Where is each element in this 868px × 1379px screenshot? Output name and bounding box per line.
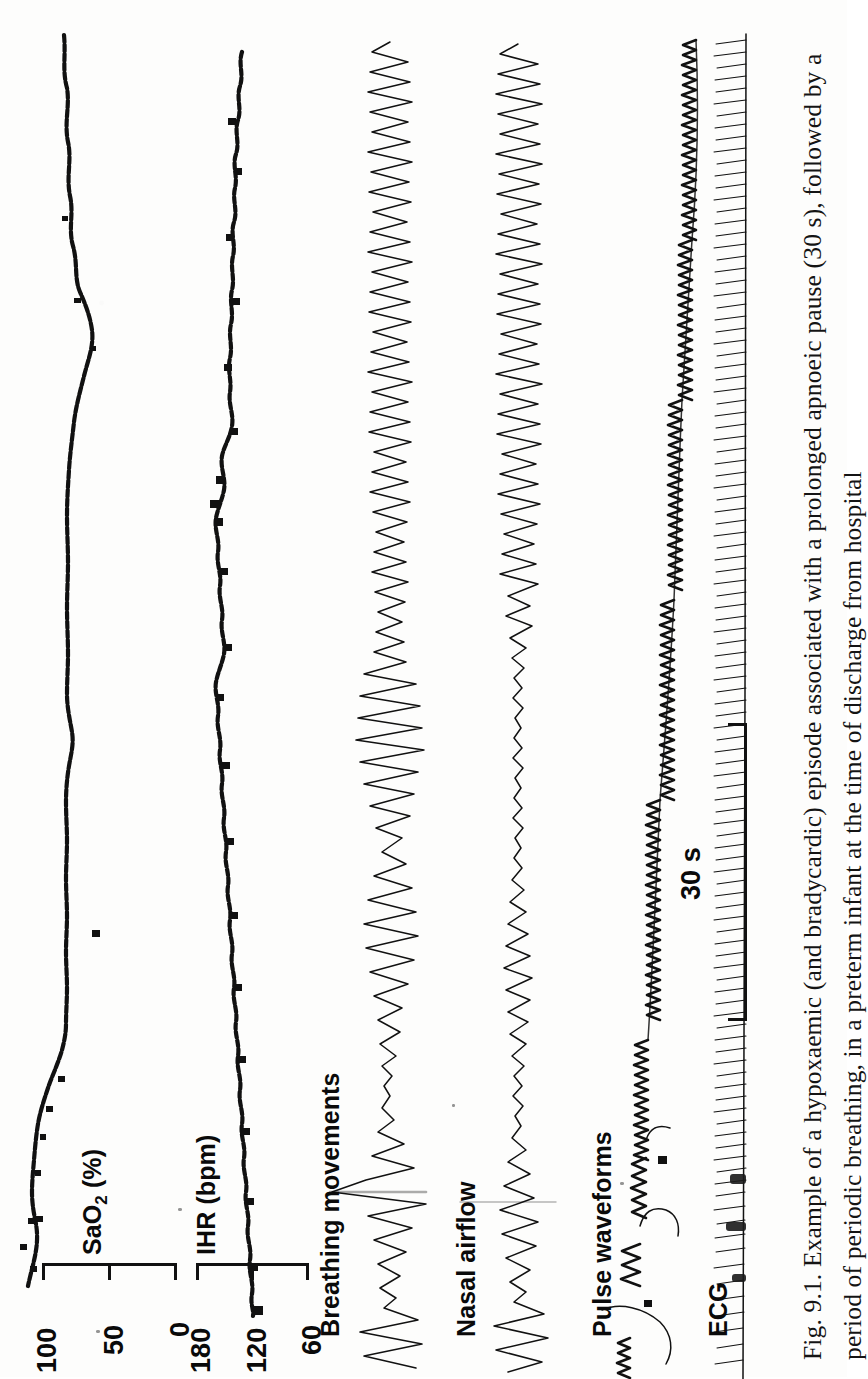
- axis-tick-label-ihr-60: 60: [297, 1325, 328, 1355]
- scan-speck: [96, 1330, 100, 1333]
- trace-sao2: [0, 30, 170, 1290]
- plot-area: Breathing movements Nasal airflow Pulse …: [0, 0, 760, 1377]
- axis-title-sao2: SaO2 (%): [78, 1149, 112, 1255]
- scalebar-label: 30 s: [676, 847, 707, 900]
- axis-tick-label-sao2-100: 100: [32, 1328, 63, 1373]
- scan-speck: [452, 1104, 455, 1107]
- axis-tick-ihr-180: [196, 1263, 199, 1280]
- channel-label-breathing-movements: Breathing movements: [316, 1073, 345, 1337]
- axis-tick-sao2-50: [108, 1263, 111, 1280]
- axis-tick-label-ihr-120: 120: [242, 1328, 273, 1373]
- axis-tick-label-ihr-180: 180: [186, 1328, 217, 1373]
- trace-ihr: [180, 48, 330, 1318]
- axis-tick-label-sao2-50: 50: [99, 1325, 130, 1355]
- scan-speck: [620, 1182, 624, 1185]
- scalebar-30s: [700, 723, 760, 1023]
- scalebar-cap-start: [728, 723, 747, 726]
- trace-breathing-movements: [330, 40, 450, 1370]
- figure-caption-line-2: period of periodic breathing, in a prete…: [838, 471, 868, 1360]
- trace-ecg: [700, 34, 770, 1379]
- channel-label-pulse-waveforms: Pulse waveforms: [588, 1131, 617, 1337]
- figure-caption-line-1: Fig. 9.1. Example of a hypoxaemic (and b…: [798, 54, 828, 1361]
- axis-tick-sao2-0: [174, 1263, 177, 1280]
- channel-label-ecg: ECG: [704, 1283, 733, 1337]
- scan-speck: [178, 1208, 182, 1211]
- scalebar-cap-end: [728, 1018, 747, 1021]
- channel-label-nasal-airflow: Nasal airflow: [452, 1181, 481, 1337]
- axis-tick-sao2-100: [42, 1263, 45, 1280]
- scalebar-line: [744, 723, 747, 1021]
- axis-title-ihr: IHR (bpm): [192, 1135, 221, 1255]
- axis-tick-ihr-60: [306, 1263, 309, 1280]
- trace-nasal-airflow: [460, 42, 580, 1372]
- axis-tick-ihr-120: [251, 1263, 254, 1280]
